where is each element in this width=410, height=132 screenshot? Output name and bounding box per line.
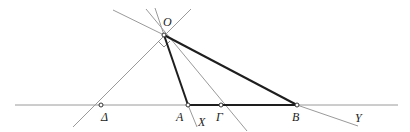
- label-gamma: Γ: [215, 110, 224, 124]
- label-o: O: [163, 15, 172, 29]
- ray-b-y: [297, 105, 358, 126]
- line-upper-left-o: [113, 10, 164, 35]
- label-a: A: [175, 110, 184, 124]
- point-delta: [99, 103, 103, 107]
- point-b: [295, 103, 299, 107]
- label-x: X: [197, 115, 206, 129]
- label-y: Y: [355, 111, 363, 125]
- ray-a-x: [188, 105, 197, 127]
- label-delta: Δ: [100, 110, 108, 124]
- point-gamma: [219, 103, 223, 107]
- label-b: B: [292, 110, 300, 124]
- geometry-figure: O Δ A Γ B X Y: [0, 0, 410, 132]
- point-o: [162, 33, 166, 37]
- diagram-canvas: O Δ A Γ B X Y: [0, 0, 410, 132]
- line-delta-o: [73, 9, 191, 127]
- point-a: [186, 103, 190, 107]
